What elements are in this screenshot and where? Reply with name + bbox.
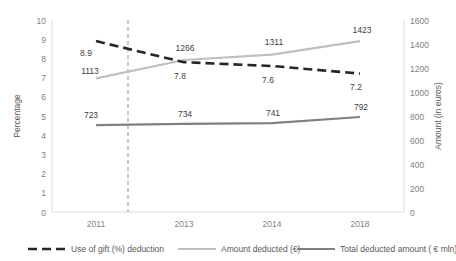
data-label: 1266 (176, 43, 195, 53)
y2-tick-label: 0 (410, 208, 415, 218)
y-tick-label: 7 (41, 73, 46, 83)
data-label: 734 (178, 109, 192, 119)
y-tick-label: 3 (41, 150, 46, 160)
data-label: 7.8 (174, 71, 186, 81)
line-chart: 10 9 8 7 6 5 4 3 2 1 0 1600 1400 1200 10… (0, 0, 456, 261)
x-tick-label: 2011 (87, 219, 106, 229)
x-tick-label: 2018 (351, 219, 370, 229)
data-label: 7.2 (350, 82, 362, 92)
data-label: 8.9 (80, 48, 92, 58)
y-tick-label: 4 (41, 131, 46, 141)
y-tick-label: 9 (41, 35, 46, 45)
legend-label: Total deducted amount ( € mln) (340, 244, 456, 254)
chart-legend: Use of gift (%) deduction Amount deducte… (28, 244, 456, 254)
data-label: 1423 (353, 25, 372, 35)
y2-tick-label: 1200 (410, 64, 429, 74)
legend-label: Amount deducted (€) (221, 244, 301, 254)
y-axis-title: Percentage (12, 94, 22, 138)
series-line-total-deducted (96, 117, 360, 125)
y-axis-right-ticks: 1600 1400 1200 1000 800 600 400 200 0 (410, 16, 429, 218)
y-tick-label: 8 (41, 54, 46, 64)
y-tick-label: 2 (41, 169, 46, 179)
data-label: 792 (354, 102, 368, 112)
y2-tick-label: 800 (410, 112, 424, 122)
y2-tick-label: 400 (410, 160, 424, 170)
y2-tick-label: 600 (410, 136, 424, 146)
x-tick-label: 2014 (263, 219, 282, 229)
x-axis-ticks: 2011 2013 2014 2018 (87, 219, 370, 229)
y2-tick-label: 200 (410, 184, 424, 194)
y2-axis-title: Amount (in euros) (433, 82, 443, 150)
data-label: 723 (84, 110, 98, 120)
chart-container: 10 9 8 7 6 5 4 3 2 1 0 1600 1400 1200 10… (0, 0, 456, 261)
series-line-amount-deducted (96, 41, 360, 78)
data-label: 1113 (81, 66, 99, 76)
data-label: 7.6 (262, 75, 274, 85)
y2-tick-label: 1600 (410, 16, 429, 26)
y-tick-label: 6 (41, 92, 46, 102)
y-tick-label: 5 (41, 112, 46, 122)
y-tick-label: 0 (41, 208, 46, 218)
data-labels-amount-deducted: 1113 1266 1311 1423 (81, 25, 372, 76)
x-tick-label: 2013 (175, 219, 194, 229)
y2-tick-label: 1000 (410, 88, 429, 98)
data-labels-total-deducted: 723 734 741 792 (84, 102, 368, 120)
y-tick-label: 1 (41, 188, 46, 198)
y-tick-label: 10 (37, 16, 47, 26)
y2-tick-label: 1400 (410, 40, 429, 50)
data-label: 741 (266, 108, 280, 118)
data-label: 1311 (265, 37, 284, 47)
y-axis-left-ticks: 10 9 8 7 6 5 4 3 2 1 0 (37, 16, 47, 218)
legend-label: Use of gift (%) deduction (71, 244, 164, 254)
